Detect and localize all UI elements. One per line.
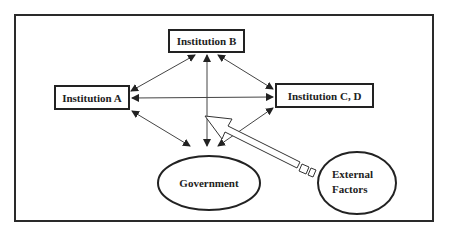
edge-a-b bbox=[131, 55, 195, 91]
external-factors-line1: External bbox=[332, 167, 382, 182]
institution-b-node: Institution B bbox=[168, 29, 245, 53]
government-text: Government bbox=[179, 177, 238, 189]
external-factors-label: External Factors bbox=[322, 167, 382, 197]
institution-cd-label: Institution C, D bbox=[288, 90, 362, 102]
institution-cd-node: Institution C, D bbox=[275, 83, 374, 108]
edge-b-cd bbox=[218, 55, 273, 89]
institution-a-label: Institution A bbox=[62, 92, 122, 104]
external-factors-line2: Factors bbox=[332, 182, 382, 197]
institution-a-node: Institution A bbox=[54, 85, 130, 110]
institution-b-label: Institution B bbox=[177, 35, 237, 47]
edge-a-government bbox=[132, 111, 190, 146]
government-label: Government bbox=[158, 176, 260, 191]
edge-a-cd bbox=[132, 97, 273, 98]
